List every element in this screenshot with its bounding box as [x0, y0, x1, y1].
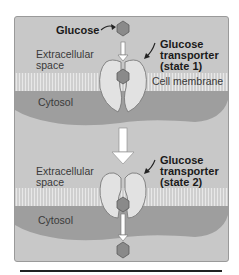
- transporter-state2-label-3: (state 2): [160, 177, 202, 188]
- extracellular-label-bottom-2: space: [36, 177, 64, 188]
- glucose-label: Glucose: [56, 25, 99, 36]
- cytosol-label-top: Cytosol: [38, 97, 73, 108]
- glucose-molecule-icon: [117, 21, 129, 36]
- extracellular-label-top-2: space: [36, 60, 64, 71]
- cytosol-label-bottom: Cytosol: [38, 215, 73, 226]
- transition-arrow-icon: [119, 128, 127, 152]
- glucose-released-icon: [117, 242, 129, 258]
- bottom-divider: [20, 270, 222, 272]
- cell-membrane-label: Cell membrane: [152, 76, 223, 87]
- transporter-state1-label-3: (state 1): [160, 61, 202, 72]
